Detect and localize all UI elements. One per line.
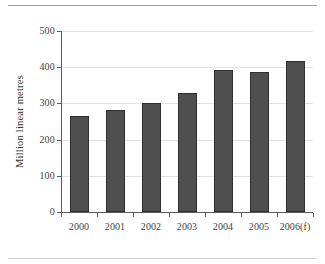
y-axis-tick-label: 300 (39, 98, 55, 108)
x-axis-tick (313, 213, 314, 217)
x-axis-tick-label: 2004 (213, 221, 233, 232)
bar (178, 93, 197, 212)
y-axis-title: Million linear metres (12, 31, 26, 212)
x-axis-tick-label: 2003 (177, 221, 197, 232)
page-rule-top (8, 5, 317, 6)
y-axis-tick-label: 0 (50, 207, 55, 217)
bar (106, 110, 125, 212)
y-axis-tick (57, 103, 61, 104)
gridline (62, 31, 313, 32)
y-axis-tick (57, 176, 61, 177)
x-axis-tick-label: 2001 (105, 221, 125, 232)
x-axis-tick (277, 213, 278, 217)
bar (70, 116, 89, 212)
x-axis-tick (61, 213, 62, 217)
y-axis-tick-label: 400 (39, 62, 55, 72)
y-axis-line (61, 31, 62, 213)
plot-area: 0100200300400500 20002001200220032004200… (61, 31, 313, 212)
x-axis-tick (241, 213, 242, 217)
x-axis-tick-label: 2000 (69, 221, 89, 232)
chart-figure: Million linear metres 0100200300400500 2… (0, 0, 325, 264)
page-rule-bottom (8, 258, 317, 259)
x-axis-tick (133, 213, 134, 217)
y-axis-tick-label: 100 (39, 171, 55, 181)
bar (142, 103, 161, 212)
gridline (62, 67, 313, 68)
y-axis-tick-label: 200 (39, 135, 55, 145)
x-axis-tick (205, 213, 206, 217)
y-axis-tick (57, 31, 61, 32)
x-axis-tick-label: 2002 (141, 221, 161, 232)
y-axis-tick (57, 140, 61, 141)
bar (214, 70, 233, 212)
x-axis-tick-label: 2005 (249, 221, 269, 232)
y-axis-title-label: Million linear metres (14, 75, 25, 168)
x-axis-tick (97, 213, 98, 217)
bar (250, 72, 269, 212)
bar (286, 61, 305, 212)
x-axis-tick-label: 2006(f) (280, 221, 311, 232)
y-axis-tick (57, 67, 61, 68)
x-axis-line (61, 212, 313, 213)
y-axis-tick-label: 500 (39, 26, 55, 36)
x-axis-tick (169, 213, 170, 217)
